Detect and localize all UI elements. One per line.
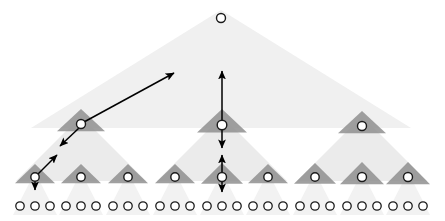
level2-node-4[interactable] xyxy=(171,173,179,181)
tree-diagram-canvas xyxy=(0,0,445,221)
leaf-node-18[interactable] xyxy=(279,202,287,210)
level2-node-1[interactable] xyxy=(31,173,39,181)
leaf-node-1[interactable] xyxy=(16,202,24,210)
leaf-node-21[interactable] xyxy=(326,202,334,210)
leaf-node-10[interactable] xyxy=(156,202,164,210)
leaf-group-8 xyxy=(343,202,381,210)
leaf-group-5 xyxy=(203,202,241,210)
leaf-node-11[interactable] xyxy=(171,202,179,210)
level2-node-3[interactable] xyxy=(124,173,132,181)
leaf-node-19[interactable] xyxy=(296,202,304,210)
leaf-node-26[interactable] xyxy=(404,202,412,210)
leaf-group-4 xyxy=(156,202,194,210)
leaf-node-2[interactable] xyxy=(31,202,39,210)
tree-diagram-figure xyxy=(0,0,445,221)
leaf-node-4[interactable] xyxy=(62,202,70,210)
leaf-node-3[interactable] xyxy=(46,202,54,210)
leaf-group-2 xyxy=(62,202,100,210)
leaf-node-6[interactable] xyxy=(92,202,100,210)
level2-node-9[interactable] xyxy=(404,173,413,182)
leaf-node-14[interactable] xyxy=(218,202,226,210)
leaf-node-5[interactable] xyxy=(77,202,85,210)
leaf-node-8[interactable] xyxy=(124,202,132,210)
leaf-node-23[interactable] xyxy=(358,202,366,210)
leaf-node-16[interactable] xyxy=(249,202,257,210)
leaf-node-22[interactable] xyxy=(343,202,351,210)
leaf-layer xyxy=(16,202,427,210)
leaf-node-15[interactable] xyxy=(233,202,241,210)
level2-node-5[interactable] xyxy=(218,173,227,182)
leaf-group-9 xyxy=(389,202,427,210)
leaf-node-12[interactable] xyxy=(186,202,194,210)
level1-node-left[interactable] xyxy=(77,120,86,129)
leaf-group-6 xyxy=(249,202,287,210)
level2-node-7[interactable] xyxy=(311,173,319,181)
leaf-node-7[interactable] xyxy=(109,202,117,210)
leaf-node-20[interactable] xyxy=(311,202,319,210)
leaf-group-1 xyxy=(16,202,54,210)
leaf-node-9[interactable] xyxy=(139,202,147,210)
leaf-node-25[interactable] xyxy=(389,202,397,210)
leaf-group-3 xyxy=(109,202,147,210)
root-node[interactable] xyxy=(217,14,226,23)
leaf-node-27[interactable] xyxy=(419,202,427,210)
leaf-node-17[interactable] xyxy=(264,202,272,210)
level1-node-center[interactable] xyxy=(217,120,227,130)
leaf-node-13[interactable] xyxy=(203,202,211,210)
level1-node-right[interactable] xyxy=(358,122,367,131)
level2-node-8[interactable] xyxy=(358,173,367,182)
level2-node-2[interactable] xyxy=(77,173,85,181)
leaf-group-7 xyxy=(296,202,334,210)
leaf-node-24[interactable] xyxy=(373,202,381,210)
level2-node-6[interactable] xyxy=(264,173,272,181)
